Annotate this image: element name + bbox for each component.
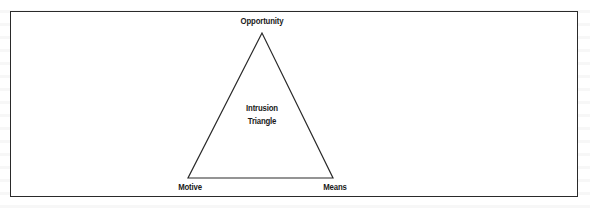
center-label: Intrusion Triangle — [237, 101, 286, 127]
vertex-label-opportunity: Opportunity — [229, 15, 295, 26]
center-label-line1: Intrusion — [237, 101, 286, 114]
vertex-label-means: Means — [315, 181, 356, 192]
center-label-line2: Triangle — [237, 114, 286, 127]
intrusion-triangle-shape — [0, 0, 590, 209]
vertex-label-motive: Motive — [170, 181, 211, 192]
